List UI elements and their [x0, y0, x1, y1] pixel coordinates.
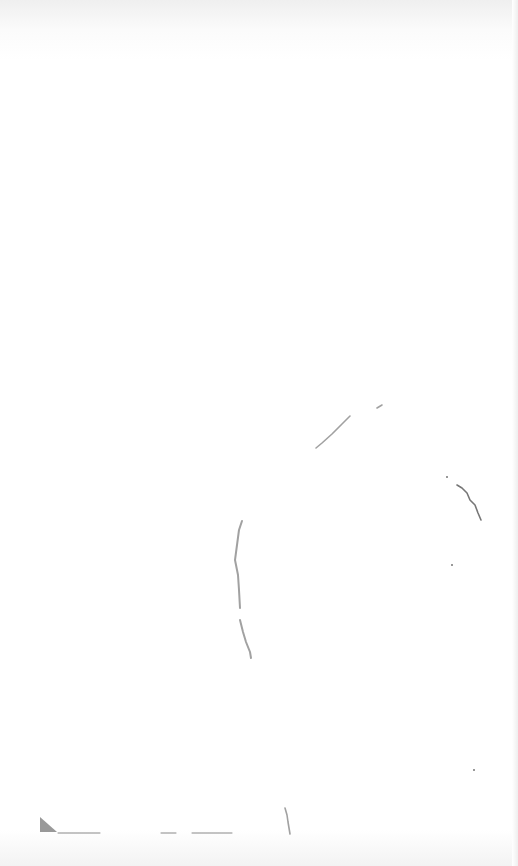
sketch-canvas: [0, 0, 518, 866]
right-curve-stroke: [457, 485, 481, 520]
upper-small-mark: [377, 405, 382, 408]
dot-mark: [473, 769, 475, 771]
bottom-vertical-stroke: [285, 808, 290, 834]
left-arc-upper: [235, 521, 242, 608]
dot-mark: [446, 476, 448, 478]
upper-diagonal-stroke: [316, 416, 350, 448]
bottom-left-triangle: [40, 817, 57, 832]
left-arc-lower: [240, 620, 251, 658]
sketch-drawing: [0, 0, 518, 866]
dot-mark: [451, 564, 453, 566]
